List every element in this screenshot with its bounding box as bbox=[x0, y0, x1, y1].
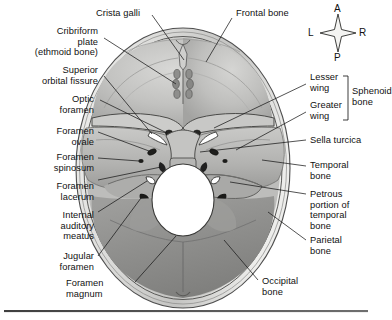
foramen-spinosum-right bbox=[222, 159, 227, 163]
compass-anterior-label: A bbox=[334, 4, 341, 14]
label-foramen-magnum: Foramen magnum bbox=[66, 278, 104, 299]
compass-left-label: L bbox=[308, 28, 314, 38]
label-greater-wing: Greater wing bbox=[310, 100, 342, 121]
label-cribriform-plate: Cribriform plate (ethmoid bone) bbox=[0, 26, 98, 58]
label-sphenoid-bone: Sphenoid bone bbox=[352, 86, 392, 107]
label-foramen-lacerum: Foramen lacerum bbox=[0, 181, 94, 202]
label-occipital-bone: Occipital bone bbox=[262, 276, 298, 297]
compass-right-label: R bbox=[359, 28, 366, 38]
label-lesser-wing: Lesser wing bbox=[310, 72, 338, 93]
label-temporal-bone: Temporal bone bbox=[310, 160, 349, 181]
compass-rose-star bbox=[320, 14, 356, 52]
label-frontal-bone: Frontal bone bbox=[236, 8, 289, 19]
label-optic-foramen: Optic foramen bbox=[0, 94, 94, 115]
skull-illustration bbox=[76, 28, 290, 308]
label-foramen-spinosum: Foramen spinosum bbox=[0, 152, 94, 173]
sella-turcica bbox=[166, 130, 200, 160]
bottom-divider-rule bbox=[4, 310, 368, 312]
label-jugular-foramen: Jugular foramen bbox=[0, 251, 94, 272]
sphenoid-bracket bbox=[343, 76, 348, 120]
label-foramen-ovale: Foramen ovale bbox=[0, 126, 94, 147]
label-parietal-bone: Parietal bone bbox=[310, 235, 342, 256]
foramen-magnum bbox=[152, 164, 214, 236]
compass-posterior-label: P bbox=[334, 53, 341, 63]
label-crista-galli: Crista galli bbox=[96, 8, 140, 19]
label-superior-orbital-fissure: Superior orbital fissure bbox=[0, 65, 98, 86]
foramen-spinosum-left bbox=[138, 159, 143, 163]
label-petrous-portion: Petrous portion of temporal bone bbox=[310, 189, 349, 231]
label-sella-turcica: Sella turcica bbox=[310, 135, 361, 146]
label-internal-auditory-meatus: Internal auditory meatus bbox=[0, 210, 94, 242]
cranial-fossae-group bbox=[82, 38, 285, 298]
